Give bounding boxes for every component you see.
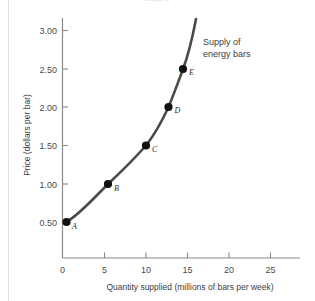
x-tick-label-10: 10 <box>141 265 151 275</box>
data-point-A <box>62 218 70 226</box>
y-tick-label-2.50: 2.50 <box>39 65 57 75</box>
x-tick-label-0: 0 <box>60 265 65 275</box>
x-tick-label-5: 5 <box>102 265 107 275</box>
curve-legend-line2: energy bars <box>203 49 251 59</box>
y-tick-label-3.00: 3.00 <box>39 26 57 36</box>
y-axis-tick-labels: 3.00 2.50 2.00 1.50 1.00 0.50 <box>39 26 57 228</box>
x-tick-label-15: 15 <box>182 265 192 275</box>
curve-legend: Supply of energy bars <box>203 37 251 59</box>
y-tick-label-1.00: 1.00 <box>39 180 57 190</box>
x-axis-tick-labels: 0 5 10 15 20 25 <box>60 265 276 275</box>
data-points <box>62 65 187 226</box>
y-tick-label-1.50: 1.50 <box>39 141 57 151</box>
data-point-label-A: A <box>71 222 77 231</box>
curve-legend-line1: Supply of <box>203 37 241 47</box>
data-point-D <box>164 103 172 111</box>
data-point-C <box>142 141 150 149</box>
x-axis-title: Quantity supplied (millions of bars per … <box>106 282 273 292</box>
x-axis-ticks <box>105 253 271 259</box>
data-point-label-E: E <box>188 68 194 77</box>
supply-curve-figure: supply 3.00 2.50 2.00 1.50 1.00 0.50 <box>0 0 315 301</box>
axes <box>63 18 301 258</box>
x-tick-label-20: 20 <box>224 265 234 275</box>
data-point-E <box>179 65 187 73</box>
data-point-label-B: B <box>114 184 119 193</box>
supply-chart: 3.00 2.50 2.00 1.50 1.00 0.50 0 5 10 15 … <box>0 0 315 301</box>
x-tick-label-25: 25 <box>265 265 275 275</box>
data-point-label-C: C <box>152 145 158 154</box>
y-tick-label-2.00: 2.00 <box>39 103 57 113</box>
data-point-label-D: D <box>174 106 181 115</box>
supply-curve <box>67 19 197 222</box>
y-axis-title: Price (dollars per bar) <box>22 94 32 176</box>
y-axis-ticks <box>63 31 69 223</box>
data-point-B <box>104 180 112 188</box>
y-tick-label-0.50: 0.50 <box>39 218 57 228</box>
